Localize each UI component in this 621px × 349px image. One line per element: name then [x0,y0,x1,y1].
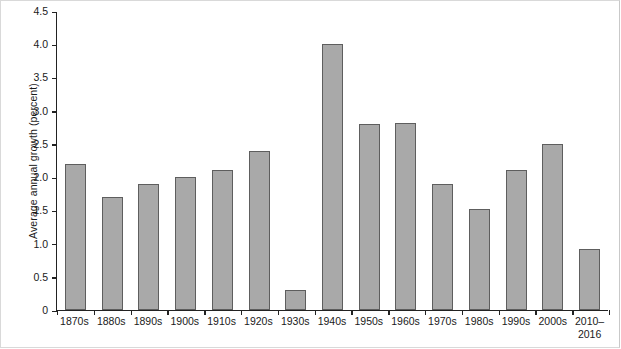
y-axis-title: Average annual growth (percent) [27,21,39,301]
bar-series [57,12,608,310]
chart-figure: Average annual growth (percent) 00.51.01… [0,0,621,349]
bar-slot [424,12,461,310]
bar-slot [535,12,572,310]
bar[interactable] [175,177,196,310]
x-tick-label: 1900s [166,315,203,340]
bar[interactable] [432,184,453,310]
bar-slot [204,12,241,310]
x-tick-label: 1990s [498,315,535,340]
x-tick-label: 1920s [240,315,277,340]
y-tick-label: 4.5 [33,5,48,17]
x-tick-label: 1950s [350,315,387,340]
bar-slot [388,12,425,310]
bar[interactable] [506,170,527,310]
bar-slot [461,12,498,310]
bar[interactable] [249,151,270,310]
plot-area: 00.51.01.52.02.53.03.54.04.5 [56,12,608,311]
x-tick-label: 2010– 2016 [571,315,608,340]
y-tick-label: 1.5 [33,204,48,216]
bar[interactable] [322,44,343,310]
bar[interactable] [359,124,380,310]
bar-slot [167,12,204,310]
x-tick-label: 1910s [203,315,240,340]
bar-slot [351,12,388,310]
x-tick-label: 1960s [387,315,424,340]
x-tick-label: 1970s [424,315,461,340]
y-tick-label: 3.5 [33,71,48,83]
x-tick-label: 1930s [277,315,314,340]
x-tick-label: 1880s [93,315,130,340]
bar[interactable] [138,184,159,310]
bar[interactable] [579,249,600,310]
y-tick-label: 2.0 [33,171,48,183]
bar-slot [130,12,167,310]
y-tick-label: 3.0 [33,105,48,117]
bar[interactable] [469,209,490,310]
y-tick-label: 0 [42,304,48,316]
x-tick-label: 1980s [461,315,498,340]
bar-slot [498,12,535,310]
bar[interactable] [102,197,123,310]
bar-slot [571,12,608,310]
bar-slot [241,12,278,310]
x-tick-label: 2000s [534,315,571,340]
x-tick-mark [609,310,610,315]
y-tick-label: 0.5 [33,271,48,283]
x-tick-label: 1940s [314,315,351,340]
y-tick-label: 2.5 [33,138,48,150]
y-tick-label: 1.0 [33,238,48,250]
bar[interactable] [542,144,563,310]
bar-slot [314,12,351,310]
bar[interactable] [285,290,306,310]
bar[interactable] [212,170,233,310]
bar-slot [57,12,94,310]
bar-slot [94,12,131,310]
bar[interactable] [65,164,86,310]
bar[interactable] [395,123,416,310]
x-axis-labels: 1870s1880s1890s1900s1910s1920s1930s1940s… [56,315,608,340]
y-tick-label: 4.0 [33,38,48,50]
x-tick-label: 1890s [130,315,167,340]
x-tick-label: 1870s [56,315,93,340]
bar-slot [277,12,314,310]
